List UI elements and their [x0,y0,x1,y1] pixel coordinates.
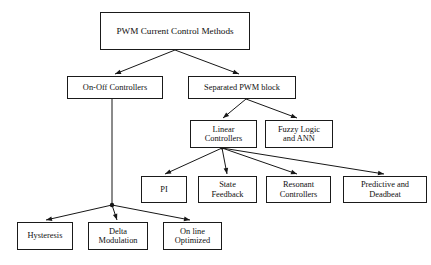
arrow-head-fuzzy-logic-and-ann [291,114,297,118]
edge-separated-pwm-block-to-fuzzy-logic-and-ann [246,99,297,118]
edge-root-to-on-off-controllers [115,50,175,74]
node-hysteresis-label: Hysteresis [25,231,66,240]
node-state-feedback-label: State Feedback [208,180,246,199]
diagram-canvas: PWM Current Control Methods On-Off Contr… [0,0,431,265]
arrow-head-delta-modulation [113,214,117,220]
arrow-head-linear-controllers [223,112,229,118]
arrow-head-hysteresis [46,216,52,220]
node-on-off-controllers[interactable]: On-Off Controllers [67,76,163,99]
edge-on-off-controllers-to-hysteresis [46,205,112,220]
edge-linear-controllers-to-resonant-controllers [222,148,297,174]
edge-on-off-controllers-to-delta-modulation [112,205,117,220]
arrow-head-separated-pwm-block [233,70,239,74]
edge-separated-pwm-block-to-linear-controllers [223,99,246,118]
node-fuzzy-logic-and-ann-label: Fuzzy Logic and ANN [275,125,323,144]
node-delta-modulation-label: Delta Modulation [95,227,140,246]
arrow-head-pi [165,169,171,174]
node-linear-controllers[interactable]: Linear Controllers [190,120,257,148]
arrow-head-predictive-and-deadbeat [378,171,384,176]
node-separated-pwm-block[interactable]: Separated PWM block [188,76,296,99]
edge-root-to-separated-pwm-block [175,50,239,74]
node-on-off-controllers-label: On-Off Controllers [80,83,150,92]
node-resonant-controllers[interactable]: Resonant Controllers [266,176,331,203]
node-on-line-optimized-label: On line Optimized [172,227,213,246]
node-fuzzy-logic-and-ann[interactable]: Fuzzy Logic and ANN [265,120,333,148]
arrow-head-resonant-controllers [291,170,297,174]
arrow-head-on-line-optimized [184,217,190,222]
arrow-head-state-feedback [224,168,229,174]
node-pi-label: PI [157,185,170,194]
node-predictive-and-deadbeat[interactable]: Predictive and Deadbeat [343,176,427,203]
node-root-label: PWM Current Control Methods [113,26,236,36]
arrow-head-on-off-controllers [115,70,121,74]
edge-linear-controllers-to-predictive-and-deadbeat [222,148,384,174]
node-linear-controllers-label: Linear Controllers [202,125,246,144]
node-hysteresis[interactable]: Hysteresis [17,222,73,250]
node-on-line-optimized[interactable]: On line Optimized [163,222,222,250]
node-separated-pwm-block-label: Separated PWM block [201,83,283,92]
node-resonant-controllers-label: Resonant Controllers [277,180,321,199]
node-state-feedback[interactable]: State Feedback [198,176,257,203]
node-predictive-and-deadbeat-label: Predictive and Deadbeat [358,180,412,199]
edge-linear-controllers-to-state-feedback [222,148,227,174]
on-off-controllers-junction-dot [110,203,114,207]
node-pi[interactable]: PI [141,176,187,203]
node-delta-modulation[interactable]: Delta Modulation [88,222,148,250]
node-root[interactable]: PWM Current Control Methods [100,12,250,50]
edge-on-off-controllers-to-on-line-optimized [112,205,190,220]
edge-linear-controllers-to-pi [165,148,222,174]
